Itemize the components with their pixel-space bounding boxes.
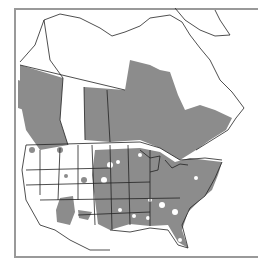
- range-fill: [18, 60, 232, 248]
- range-map: [0, 0, 258, 270]
